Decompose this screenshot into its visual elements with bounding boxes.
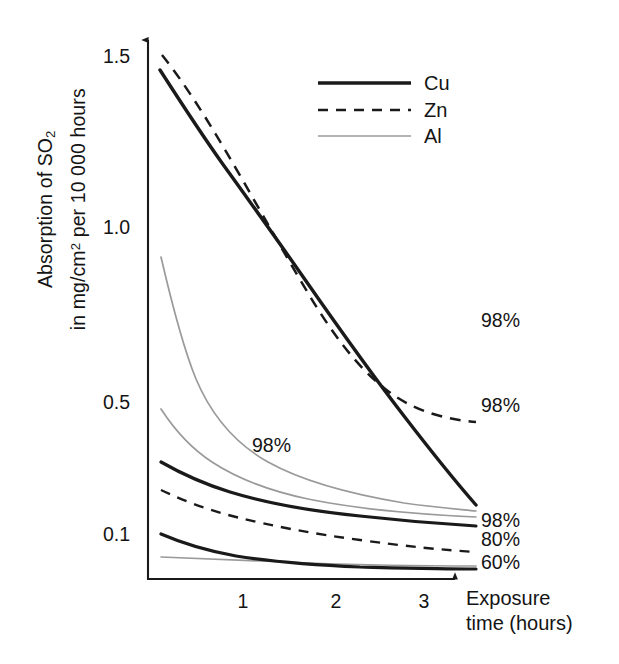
curve-al-98-steep <box>161 257 476 511</box>
x-tick-1: 1 <box>231 592 255 612</box>
cm2-superscript: 2 <box>68 243 83 250</box>
y-axis-unit-text: in mg/cm <box>67 250 89 330</box>
chart-figure: Absorption of SO2 in mg/cm2 per 10 000 h… <box>0 0 619 664</box>
legend-item-cu: Cu <box>424 73 450 93</box>
chart-plot-area <box>0 0 619 664</box>
curve-cu-98-cluster <box>161 462 476 526</box>
label-zn-top-98: 98% <box>481 311 520 331</box>
legend-swatches <box>318 83 411 136</box>
y-tick-1-5: 1.5 <box>86 47 130 67</box>
x-tick-2: 2 <box>324 592 348 612</box>
curve-zn-80-cluster <box>161 490 476 552</box>
label-cu-top-98: 98% <box>481 396 520 416</box>
legend-item-zn: Zn <box>424 100 447 120</box>
y-tick-0-5: 0.5 <box>86 393 130 413</box>
label-cluster-80: 80% <box>481 530 520 550</box>
curve-al-98-lower <box>161 409 476 517</box>
y-axis-title-line1: Absorption of SO2 <box>33 29 63 389</box>
y-axis-title-text: Absorption of SO <box>34 138 56 288</box>
x-axis-title-line1: Exposure <box>466 586 573 611</box>
x-axis-title: Exposure time (hours) <box>466 586 573 636</box>
x-tick-3: 3 <box>412 592 436 612</box>
y-tick-0-1: 0.1 <box>86 525 130 545</box>
legend-item-al: Al <box>424 126 442 146</box>
y-axis-title-line2: in mg/cm2 per 10 000 hours <box>63 29 92 389</box>
x-axis-title-line2: time (hours) <box>466 611 573 636</box>
so2-subscript: 2 <box>43 130 58 137</box>
curve-cu-60-lowest <box>161 534 476 569</box>
y-tick-1-0: 1.0 <box>86 218 130 238</box>
label-al-mid-98: 98% <box>252 436 291 456</box>
y-axis-title: Absorption of SO2 in mg/cm2 per 10 000 h… <box>33 29 91 389</box>
label-cluster-60: 60% <box>481 553 520 573</box>
